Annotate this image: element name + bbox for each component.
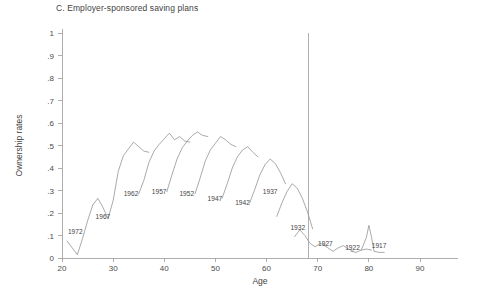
x-tick-label: 90 xyxy=(416,264,425,273)
cohort-year-label: 1927 xyxy=(318,240,333,247)
chart-figure: C. Employer-sponsored saving plans 0.1.2… xyxy=(0,0,478,295)
cohort-profile-line xyxy=(167,132,208,192)
y-axis-title: Ownership rates xyxy=(14,115,24,177)
y-tick-label: 0 xyxy=(50,254,55,263)
cohort-year-label: 1952 xyxy=(179,190,194,197)
cohort-profile-line xyxy=(250,159,286,203)
cohort-year-label: 1917 xyxy=(372,242,387,249)
y-tick-label: .9 xyxy=(47,52,54,61)
axis-layer: 0.1.2.3.4.5.6.7.8.912030405060708090AgeO… xyxy=(14,29,458,286)
cohort-profile-line xyxy=(277,184,313,229)
cohort-year-label: 1942 xyxy=(235,199,250,206)
ownership-rates-line-chart: 0.1.2.3.4.5.6.7.8.912030405060708090AgeO… xyxy=(0,0,478,295)
x-axis-title: Age xyxy=(252,276,267,286)
x-tick-label: 30 xyxy=(109,264,118,273)
cohort-year-label: 1972 xyxy=(68,228,83,235)
cohort-year-label: 1947 xyxy=(208,195,223,202)
series-layer xyxy=(67,132,384,255)
y-tick-label: .3 xyxy=(47,187,54,196)
cohort-year-label: 1937 xyxy=(263,188,278,195)
y-tick-label: .2 xyxy=(47,209,54,218)
x-tick-label: 80 xyxy=(364,264,373,273)
y-tick-label: .5 xyxy=(47,142,54,151)
cohort-profile-line xyxy=(139,133,190,194)
cohort-year-label: 1962 xyxy=(124,190,139,197)
y-tick-label: .6 xyxy=(47,119,54,128)
y-tick-label: 1 xyxy=(50,29,55,38)
cohort-profile-line xyxy=(222,147,258,199)
y-tick-label: .7 xyxy=(47,97,54,106)
y-tick-label: .8 xyxy=(47,74,54,83)
x-tick-label: 20 xyxy=(58,264,67,273)
cohort-year-label: 1932 xyxy=(290,224,305,231)
x-tick-label: 60 xyxy=(262,264,271,273)
cohort-year-label: 1957 xyxy=(152,188,167,195)
x-tick-label: 50 xyxy=(211,264,220,273)
y-tick-label: .4 xyxy=(47,164,54,173)
cohort-profile-line xyxy=(93,142,149,219)
cohort-year-label: 1967 xyxy=(96,213,111,220)
y-tick-label: .1 xyxy=(47,232,54,241)
x-tick-label: 40 xyxy=(160,264,169,273)
x-tick-label: 70 xyxy=(313,264,322,273)
cohort-profile-line xyxy=(195,137,236,194)
cohort-year-label: 1922 xyxy=(345,244,360,251)
cohort-label-layer: 1972196719621957195219471942193719321927… xyxy=(68,188,387,251)
